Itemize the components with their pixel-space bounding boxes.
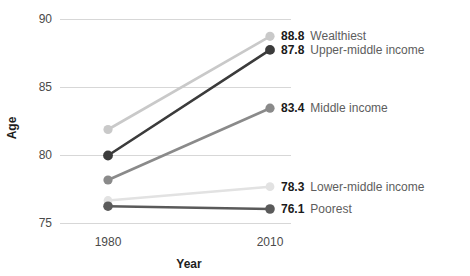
series-line-wealthiest bbox=[108, 36, 270, 129]
series-lower-middle-income bbox=[104, 182, 275, 205]
line-chart: 90 85 80 75 bbox=[0, 0, 470, 276]
endpoint-name-poorest: Poorest bbox=[310, 203, 351, 215]
series-dot-wealthiest-1980 bbox=[103, 125, 112, 134]
ytick-label-90: 90 bbox=[39, 12, 53, 26]
endpoint-value-lower-middle-income: 78.3 bbox=[281, 181, 304, 193]
ytick-label-80: 80 bbox=[39, 148, 53, 162]
endpoint-value-poorest: 76.1 bbox=[281, 203, 304, 215]
xtick-label-1980: 1980 bbox=[95, 235, 122, 249]
series-dot-middle-income-1980 bbox=[103, 175, 112, 184]
endpoint-label-poorest: 76.1 Poorest bbox=[281, 203, 352, 215]
series-middle-income bbox=[103, 104, 274, 185]
y-axis-title: Age bbox=[5, 116, 19, 139]
series-dot-upper-middle-income-2010 bbox=[265, 45, 275, 55]
endpoint-label-middle-income: 83.4 Middle income bbox=[281, 102, 388, 114]
endpoint-name-middle-income: Middle income bbox=[310, 102, 387, 114]
series-dot-poorest-1980 bbox=[103, 201, 113, 211]
series-dot-poorest-2010 bbox=[265, 204, 275, 214]
ytick-label-85: 85 bbox=[39, 80, 53, 94]
endpoint-label-lower-middle-income: 78.3 Lower-middle income bbox=[281, 181, 424, 193]
chart-plot-area: 90 85 80 75 bbox=[0, 0, 470, 276]
series-line-lower-middle-income bbox=[108, 187, 270, 201]
ytick-labels: 90 85 80 75 bbox=[39, 12, 53, 230]
series-line-upper-middle-income bbox=[108, 50, 270, 156]
series-dot-wealthiest-2010 bbox=[265, 32, 274, 41]
xtick-label-2010: 2010 bbox=[257, 235, 284, 249]
series-line-middle-income bbox=[108, 108, 270, 180]
series-dot-middle-income-2010 bbox=[265, 104, 274, 113]
endpoint-label-wealthiest: 88.8 Wealthiest bbox=[281, 30, 366, 42]
endpoint-name-upper-middle-income: Upper-middle income bbox=[310, 44, 424, 56]
x-axis-title: Year bbox=[176, 257, 202, 271]
endpoint-name-wealthiest: Wealthiest bbox=[310, 30, 366, 42]
endpoint-label-upper-middle-income: 87.8 Upper-middle income bbox=[281, 44, 424, 56]
endpoint-value-upper-middle-income: 87.8 bbox=[281, 44, 304, 56]
ytick-label-75: 75 bbox=[39, 216, 53, 230]
endpoint-value-middle-income: 83.4 bbox=[281, 102, 304, 114]
series-poorest bbox=[103, 201, 275, 213]
series-dot-lower-middle-income-2010 bbox=[266, 182, 275, 191]
endpoint-name-lower-middle-income: Lower-middle income bbox=[310, 181, 424, 193]
endpoint-value-wealthiest: 88.8 bbox=[281, 30, 304, 42]
series-dot-upper-middle-income-1980 bbox=[103, 151, 113, 161]
series-line-poorest bbox=[108, 206, 270, 209]
xtick-labels: 1980 2010 bbox=[95, 235, 284, 249]
gridlines bbox=[60, 20, 291, 224]
